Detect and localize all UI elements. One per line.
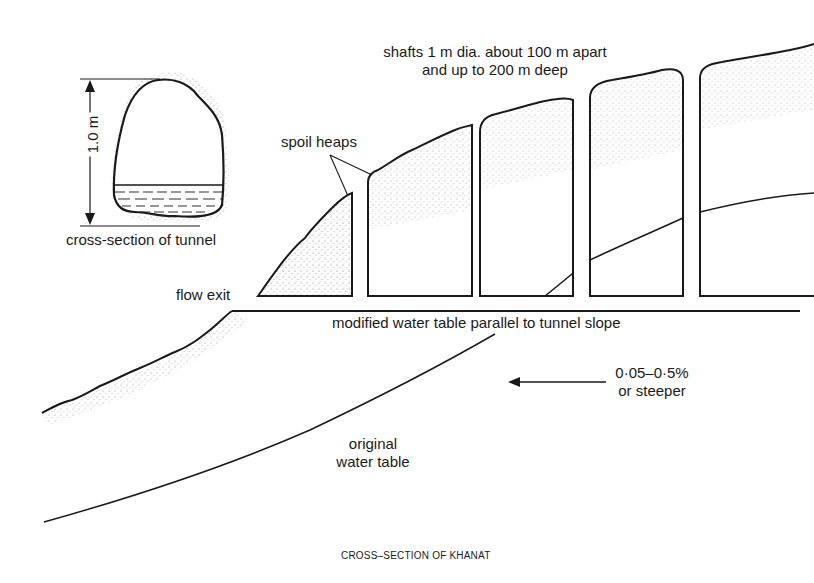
spoil-heap-1-fill	[258, 194, 352, 295]
original-water-table-upper	[545, 273, 573, 296]
shafts-note-line-2: and up to 200 m deep	[370, 61, 620, 79]
shaft-1-stipple	[368, 125, 472, 230]
figure-caption: CROSS–SECTION OF KHANAT	[341, 547, 490, 565]
original-water-table-line	[44, 334, 495, 522]
shaft-3-stipple	[590, 71, 683, 170]
original-water-table-line-2: water table	[318, 453, 428, 471]
khanat-diagram	[0, 0, 814, 583]
original-water-table-upper-2	[590, 218, 683, 260]
flow-exit-label: flow exit	[176, 286, 230, 304]
spoil-heaps-leaders	[330, 155, 372, 196]
slope-gradient-line-2: or steeper	[612, 382, 692, 400]
shafts-note-line-1: shafts 1 m dia. about 100 m apart	[370, 43, 620, 61]
spoil-heaps-label: spoil heaps	[281, 133, 357, 151]
tunnel-cross-section-label: cross-section of tunnel	[66, 231, 216, 249]
ground-surface	[258, 44, 814, 296]
original-water-table-line-1: original	[318, 435, 428, 453]
valley-slope-line	[42, 311, 232, 413]
valley-slope-stipple	[42, 311, 248, 425]
leader-line-1	[330, 155, 348, 196]
dimension-arrow-down-icon	[85, 213, 95, 225]
slope-direction-arrow	[508, 377, 606, 387]
original-water-table-label: original water table	[318, 435, 428, 471]
valley-slope	[42, 311, 248, 425]
tunnel-cross-section	[80, 72, 229, 226]
slope-gradient-line-1: 0·05–0·5%	[612, 364, 692, 382]
dimension-arrow-up-icon	[85, 80, 95, 92]
original-water-table-upper-3	[700, 193, 814, 212]
shafts-note: shafts 1 m dia. about 100 m apart and up…	[370, 43, 620, 79]
shaft-2-stipple	[480, 97, 572, 190]
modified-water-table-label: modified water table parallel to tunnel …	[332, 314, 621, 332]
slope-gradient-label: 0·05–0·5% or steeper	[612, 364, 692, 400]
tunnel-height-label: 1.0 m	[84, 113, 101, 157]
arrow-left-icon	[508, 377, 520, 387]
leader-line-2	[330, 155, 372, 175]
